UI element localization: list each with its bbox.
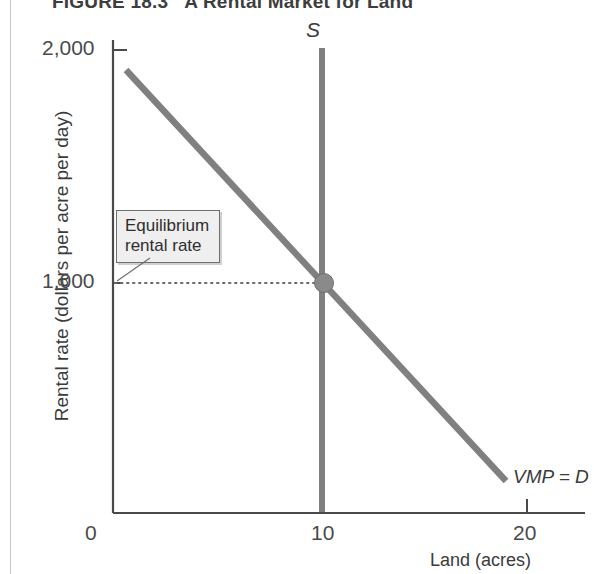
callout-leader-line <box>117 258 150 281</box>
plot-area <box>0 0 608 574</box>
equilibrium-point-marker <box>315 274 334 293</box>
figure-container: FIGURE 18.3A Rental Market for Land Rent… <box>0 0 608 574</box>
demand-curve <box>126 70 506 481</box>
